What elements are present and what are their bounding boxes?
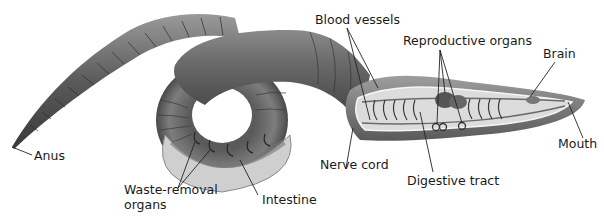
label-nerve-cord: Nerve cord — [320, 158, 389, 172]
label-waste-removal-line1: Waste-removal — [124, 183, 218, 197]
label-brain: Brain — [543, 47, 576, 61]
label-mouth: Mouth — [558, 137, 597, 151]
label-anus: Anus — [34, 149, 65, 163]
worm-head-cutaway — [346, 76, 585, 141]
label-blood-vessels: Blood vessels — [315, 13, 400, 27]
label-reproductive-organs: Reproductive organs — [403, 34, 532, 48]
label-digestive-tract: Digestive tract — [407, 174, 499, 188]
label-intestine: Intestine — [262, 193, 317, 207]
label-waste-removal-line2: organs — [124, 198, 167, 212]
